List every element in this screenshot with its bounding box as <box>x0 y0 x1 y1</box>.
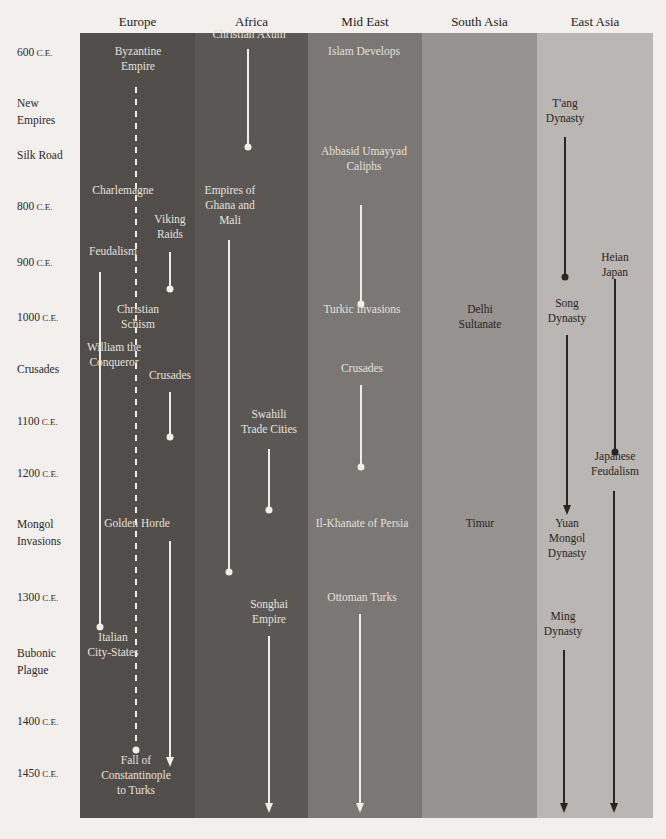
timeline-arrow <box>560 650 568 813</box>
event-label: Crusades <box>341 361 383 376</box>
timeline-span <box>612 279 619 456</box>
timeline-span <box>358 205 365 308</box>
timeline-span <box>167 392 174 441</box>
event-label: Islam Develops <box>328 44 400 59</box>
event-label: Empires of Ghana and Mali <box>205 183 256 228</box>
event-label: Songhai Empire <box>250 597 288 627</box>
event-label: Japanese Feudalism <box>591 449 639 479</box>
timeline-arrow <box>166 541 174 767</box>
timeline-span <box>266 449 273 514</box>
end-dot-icon <box>226 569 233 576</box>
arrowhead-icon <box>356 803 364 813</box>
event-label: Swahili Trade Cities <box>241 407 297 437</box>
event-label: Fall of Constantinople to Turks <box>101 753 171 798</box>
timeline-arrow <box>610 491 618 813</box>
event-label: Ming Dynasty <box>544 609 582 639</box>
event-label: Abbasid Umayyad Caliphs <box>321 144 407 174</box>
arrowhead-icon <box>560 803 568 813</box>
timeline-span <box>97 272 104 631</box>
timeline-arrow <box>356 614 364 813</box>
event-label: William the Conqueror <box>87 340 141 370</box>
event-label: Crusades <box>149 368 191 383</box>
end-dot-icon <box>167 434 174 441</box>
event-label: Golden Horde <box>104 516 169 531</box>
arrowhead-icon <box>563 505 571 515</box>
timeline-span <box>167 252 174 293</box>
timeline-arrow <box>265 636 273 813</box>
event-label: Heian Japan <box>590 250 641 280</box>
end-dot-icon <box>245 144 252 151</box>
event-label: Ottoman Turks <box>327 590 396 605</box>
end-dot-icon <box>358 464 365 471</box>
event-label: Delhi Sultanate <box>459 302 502 332</box>
end-dot-icon <box>266 507 273 514</box>
timeline-span <box>562 137 569 281</box>
event-label: Christian Schism <box>117 302 159 332</box>
timeline-span <box>226 240 233 576</box>
timeline-span <box>245 49 252 151</box>
event-label: Timur <box>466 516 494 531</box>
event-label: Italian City-States <box>87 630 138 660</box>
end-dot-icon <box>167 286 174 293</box>
event-label: Il-Khanate of Persia <box>316 516 409 531</box>
event-label: Christian Axum <box>212 27 285 42</box>
event-label: Charlemagne <box>92 183 153 198</box>
timeline-span <box>358 385 365 471</box>
event-label: T'ang Dynasty <box>546 96 584 126</box>
end-dot-icon <box>562 274 569 281</box>
arrowhead-icon <box>265 803 273 813</box>
event-label: Turkic Invasions <box>323 302 400 317</box>
event-label: Viking Raids <box>154 212 185 242</box>
arrowhead-icon <box>610 803 618 813</box>
event-label: Byzantine Empire <box>115 44 162 74</box>
event-label: Feudalism <box>89 244 137 259</box>
event-label: Yuan Mongol Dynasty <box>548 516 586 561</box>
timeline-arrow <box>563 335 571 515</box>
event-label: Song Dynasty <box>548 296 586 326</box>
